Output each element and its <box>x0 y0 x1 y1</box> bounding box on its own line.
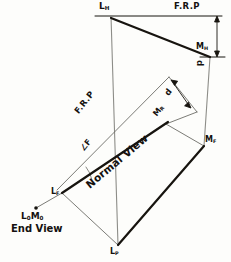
projector-right <box>204 57 210 146</box>
label-l-f: LF <box>51 188 60 196</box>
dimension-top-group <box>215 16 220 57</box>
arrowhead-top-up <box>215 16 220 22</box>
dimension-middle-group <box>171 80 191 108</box>
tie-mr-mf <box>166 124 204 146</box>
object-lines <box>62 18 210 245</box>
projector-left <box>111 16 118 245</box>
label-dimension-top: d <box>196 60 205 66</box>
label-l-h: LH <box>99 2 109 12</box>
label-l-p: LP <box>110 248 119 256</box>
dimension-middle-line <box>174 84 188 104</box>
label-end-view-caption: End View <box>11 224 63 234</box>
thick-line-lp-mf <box>118 146 204 245</box>
thick-line-lh-mh <box>111 18 210 57</box>
arrowhead-mid-a <box>171 80 178 85</box>
arrowhead-top-down <box>215 51 220 57</box>
label-m-h: MH <box>196 43 208 51</box>
offset-line-lower <box>166 112 197 124</box>
label-end-view-point: L0M0 <box>21 212 44 222</box>
drawing-canvas: LH MH MF MR LF LP F.R.P F.R.P d d ∠F Nor… <box>0 0 231 262</box>
end-view-point-dot <box>34 206 38 210</box>
label-m-f: MF <box>205 136 216 144</box>
label-frp-top: F.R.P <box>174 2 200 11</box>
tie-lf-lp <box>62 193 118 245</box>
